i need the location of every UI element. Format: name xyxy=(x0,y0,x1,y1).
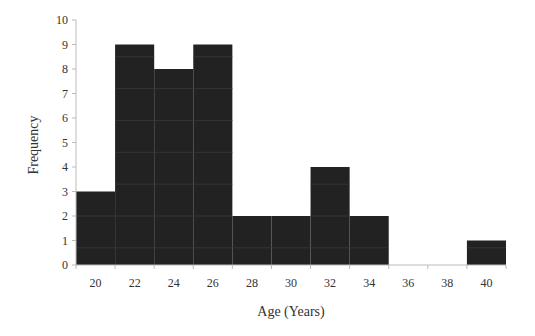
y-tick-label: 2 xyxy=(62,209,68,223)
histogram-bar-22 xyxy=(115,45,154,266)
histogram-bar-24 xyxy=(154,69,193,265)
histogram-bar-20 xyxy=(76,192,115,266)
y-tick-label: 1 xyxy=(62,234,68,248)
histogram-bar-34 xyxy=(350,216,389,265)
histogram-bar-40 xyxy=(467,241,506,266)
y-tick-label: 10 xyxy=(56,13,68,27)
histogram-chart: 012345678910 2022242628303234363840 Freq… xyxy=(0,0,535,336)
y-tick-labels: 012345678910 xyxy=(56,13,68,272)
x-axis-title: Age (Years) xyxy=(257,304,325,320)
x-tick-label: 26 xyxy=(207,276,219,290)
y-tick-label: 3 xyxy=(62,185,68,199)
y-tick-label: 0 xyxy=(62,258,68,272)
x-tick-label: 32 xyxy=(324,276,336,290)
x-tick-label: 24 xyxy=(168,276,180,290)
bars-group xyxy=(76,45,506,266)
x-tick-label: 40 xyxy=(480,276,492,290)
x-tick-label: 22 xyxy=(129,276,141,290)
y-tick-label: 9 xyxy=(62,38,68,52)
histogram-bar-28 xyxy=(232,216,271,265)
x-tick-labels: 2022242628303234363840 xyxy=(90,276,493,290)
y-tick-label: 5 xyxy=(62,136,68,150)
y-axis-title: Frequency xyxy=(26,115,41,174)
x-tick-label: 38 xyxy=(441,276,453,290)
x-tick-label: 28 xyxy=(246,276,258,290)
x-tick-label: 34 xyxy=(363,276,375,290)
y-tick-label: 4 xyxy=(62,160,68,174)
y-tick-label: 6 xyxy=(62,111,68,125)
y-tick-label: 7 xyxy=(62,87,68,101)
histogram-bar-26 xyxy=(193,45,232,266)
y-tick-label: 8 xyxy=(62,62,68,76)
x-tick-label: 20 xyxy=(90,276,102,290)
x-tick-label: 36 xyxy=(402,276,414,290)
x-tick-label: 30 xyxy=(285,276,297,290)
histogram-bar-30 xyxy=(271,216,310,265)
